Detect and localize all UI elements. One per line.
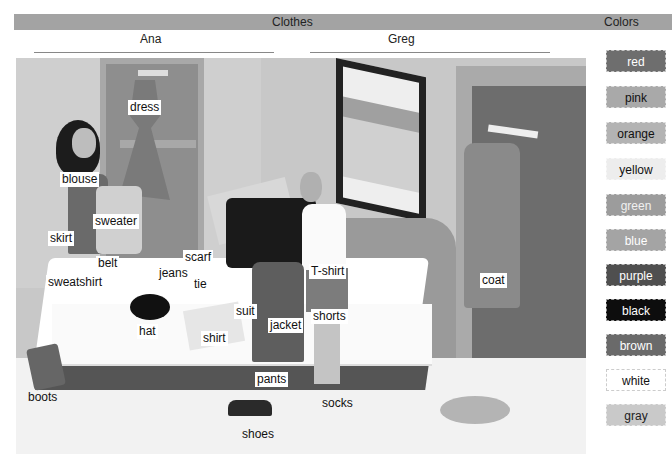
hat-illustration: [130, 294, 170, 320]
label-scarf: scarf: [183, 250, 213, 265]
closet-crossbar: [120, 140, 196, 148]
greg-divider: [310, 52, 550, 53]
jacket-illustration: [252, 262, 304, 362]
label-dress: dress: [128, 100, 161, 115]
swatch-blue: blue: [606, 229, 666, 251]
swatch-brown: brown: [606, 334, 666, 356]
greg-head: [300, 172, 322, 202]
label-coat: coat: [480, 273, 507, 288]
header-bar: Clothes Colors: [14, 14, 672, 30]
shoes-illustration: [228, 400, 272, 416]
label-blouse: blouse: [60, 172, 99, 187]
swatch-orange: orange: [606, 122, 666, 144]
swatch-white: white: [606, 369, 666, 391]
label-suit: suit: [234, 304, 257, 319]
label-tie: tie: [192, 277, 209, 292]
swatch-pink: pink: [606, 86, 666, 108]
ana-face: [72, 128, 96, 158]
label-shoes: shoes: [240, 427, 276, 442]
person-label-ana: Ana: [140, 32, 161, 46]
clothes-heading: Clothes: [272, 14, 313, 30]
label-sweatshirt: sweatshirt: [46, 275, 104, 290]
label-socks: socks: [320, 396, 355, 411]
window-frame: [336, 58, 426, 222]
rug: [440, 396, 510, 424]
hook-rail-icon: [138, 70, 168, 76]
label-shorts: shorts: [311, 309, 348, 324]
label-pants: pants: [255, 372, 288, 387]
swatch-gray: gray: [606, 404, 666, 426]
ana-divider: [34, 52, 274, 53]
label-hat: hat: [137, 324, 158, 339]
swatch-green: green: [606, 194, 666, 216]
label-jeans: jeans: [157, 266, 190, 281]
person-label-greg: Greg: [388, 32, 415, 46]
swatch-black: black: [606, 299, 666, 321]
swatch-red: red: [606, 50, 666, 72]
label-belt: belt: [96, 256, 119, 271]
label-skirt: skirt: [48, 231, 74, 246]
colors-heading: Colors: [604, 14, 639, 30]
swatch-yellow: yellow: [606, 158, 666, 180]
label-boots: boots: [26, 390, 59, 405]
swatch-purple: purple: [606, 264, 666, 286]
label-shirt: shirt: [201, 331, 228, 346]
label-sweater: sweater: [93, 214, 139, 229]
t-shirt-illustration: [302, 204, 346, 270]
label-t-shirt: T-shirt: [309, 264, 346, 279]
label-jacket: jacket: [268, 318, 303, 333]
